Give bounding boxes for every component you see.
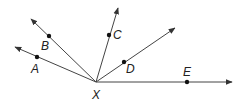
point-b xyxy=(47,34,51,38)
ray-xc xyxy=(96,8,118,82)
vertex-label-x: X xyxy=(91,88,101,102)
labels-group: ABCDEX xyxy=(30,28,192,102)
point-label-a: A xyxy=(30,62,39,76)
point-c xyxy=(107,33,111,37)
point-label-d: D xyxy=(126,62,135,76)
points-group xyxy=(35,33,189,84)
point-label-b: B xyxy=(41,39,49,53)
point-e xyxy=(185,80,189,84)
point-label-e: E xyxy=(183,65,192,79)
point-label-c: C xyxy=(113,28,122,42)
angle-rays-diagram: ABCDEX xyxy=(0,0,236,105)
point-a xyxy=(35,55,39,59)
ray-xa xyxy=(15,47,96,82)
